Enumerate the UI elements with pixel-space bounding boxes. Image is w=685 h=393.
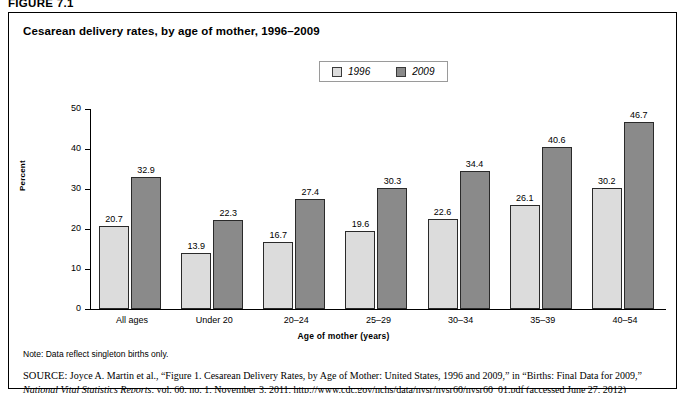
source-text-part2: , vol. 60, no. 1, November 3, 2011, http… bbox=[151, 384, 626, 393]
bar-value-label: 20.7 bbox=[105, 214, 123, 224]
x-category-label: All ages bbox=[91, 315, 173, 325]
y-tick-mark bbox=[85, 149, 90, 150]
bar-2009-20-24[interactable]: 27.4 bbox=[295, 199, 325, 309]
bar-group: 30.246.7 bbox=[584, 109, 666, 309]
x-category-label: 20–24 bbox=[255, 315, 337, 325]
bar-group: 22.634.4 bbox=[420, 109, 502, 309]
figure-box: Cesarean delivery rates, by age of mothe… bbox=[8, 12, 677, 389]
plot-area: Percent 01020304050 20.732.913.922.316.7… bbox=[9, 13, 678, 390]
y-axis-title: Percent bbox=[18, 160, 27, 191]
y-tick-mark bbox=[85, 189, 90, 190]
bar-value-label: 46.7 bbox=[630, 110, 648, 120]
bar-group: 19.630.3 bbox=[337, 109, 419, 309]
chart-note: Note: Data reflect singleton births only… bbox=[23, 349, 168, 359]
x-category-label: 40–54 bbox=[584, 315, 666, 325]
bar-value-label: 27.4 bbox=[302, 187, 320, 197]
bar-group: 26.140.6 bbox=[502, 109, 584, 309]
y-tick-label: 50 bbox=[57, 104, 81, 113]
y-tick-label: 40 bbox=[57, 144, 81, 153]
bar-value-label: 32.9 bbox=[137, 165, 155, 175]
bar-group: 16.727.4 bbox=[255, 109, 337, 309]
x-axis-line bbox=[90, 309, 666, 310]
bar-1996-25-29[interactable]: 19.6 bbox=[345, 231, 375, 309]
y-tick-mark bbox=[85, 309, 90, 310]
bar-value-label: 34.4 bbox=[466, 159, 484, 169]
x-category-label: Under 20 bbox=[173, 315, 255, 325]
figure-number: FIGURE 7.1 bbox=[8, 0, 74, 10]
bar-2009-all-ages[interactable]: 32.9 bbox=[131, 177, 161, 309]
bar-2009-30-34[interactable]: 34.4 bbox=[460, 171, 490, 309]
source-text-part1: Joyce A. Martin et al., “Figure 1. Cesar… bbox=[67, 370, 642, 381]
bar-2009-40-54[interactable]: 46.7 bbox=[624, 122, 654, 309]
y-tick-label: 10 bbox=[57, 264, 81, 273]
x-category-label: 35–39 bbox=[502, 315, 584, 325]
bars-layer: 20.732.913.922.316.727.419.630.322.634.4… bbox=[91, 109, 666, 309]
bar-value-label: 16.7 bbox=[270, 230, 288, 240]
bar-value-label: 22.6 bbox=[434, 207, 452, 217]
bar-value-label: 30.2 bbox=[598, 176, 616, 186]
bar-group: 20.732.9 bbox=[91, 109, 173, 309]
y-tick-mark bbox=[85, 229, 90, 230]
bar-value-label: 19.6 bbox=[352, 219, 370, 229]
bar-value-label: 40.6 bbox=[548, 135, 566, 145]
bar-group: 13.922.3 bbox=[173, 109, 255, 309]
bar-1996-40-54[interactable]: 30.2 bbox=[592, 188, 622, 309]
bar-value-label: 30.3 bbox=[384, 176, 402, 186]
bar-value-label: 13.9 bbox=[187, 241, 205, 251]
source-publication-title: National Vital Statistics Reports bbox=[23, 384, 151, 393]
y-tick-label: 0 bbox=[57, 304, 81, 313]
y-tick-label: 20 bbox=[57, 224, 81, 233]
bar-1996-20-24[interactable]: 16.7 bbox=[263, 242, 293, 309]
x-axis-title: Age of mother (years) bbox=[9, 331, 678, 341]
source-tag: SOURCE: bbox=[23, 370, 67, 381]
bar-2009-25-29[interactable]: 30.3 bbox=[377, 188, 407, 309]
y-tick-label: 30 bbox=[57, 184, 81, 193]
bar-1996-under-20[interactable]: 13.9 bbox=[181, 253, 211, 309]
bar-1996-30-34[interactable]: 22.6 bbox=[428, 219, 458, 309]
x-category-label: 30–34 bbox=[420, 315, 502, 325]
bar-1996-35-39[interactable]: 26.1 bbox=[510, 205, 540, 309]
bar-value-label: 22.3 bbox=[219, 208, 237, 218]
x-category-label: 25–29 bbox=[337, 315, 419, 325]
bar-2009-35-39[interactable]: 40.6 bbox=[542, 147, 572, 309]
y-tick-mark bbox=[85, 269, 90, 270]
bar-value-label: 26.1 bbox=[516, 193, 534, 203]
y-tick-mark bbox=[85, 109, 90, 110]
source-citation: SOURCE: Joyce A. Martin et al., “Figure … bbox=[23, 369, 668, 393]
bar-2009-under-20[interactable]: 22.3 bbox=[213, 220, 243, 309]
bar-1996-all-ages[interactable]: 20.7 bbox=[99, 226, 129, 309]
